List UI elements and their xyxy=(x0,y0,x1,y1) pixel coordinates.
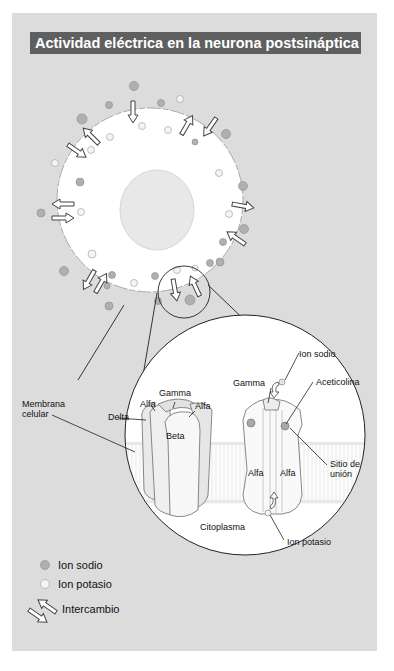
label-alfa: Alfa xyxy=(248,468,264,478)
label-ion-potasio: Ion potasio xyxy=(287,537,331,547)
label-gamma: Gamma xyxy=(159,388,191,398)
exchange-arrows-icon xyxy=(26,596,59,627)
label-alfa: Alfa xyxy=(280,468,296,478)
svg-text:unión: unión xyxy=(330,469,352,479)
receptor-closed xyxy=(142,399,212,517)
legend: Ion sodio Ion potasio Intercambio xyxy=(26,559,119,626)
label-sitio-de-union: Sitio de xyxy=(330,459,360,469)
potassium-ion-icon xyxy=(41,580,50,589)
legend-label: Intercambio xyxy=(62,603,119,615)
label-beta: Beta xyxy=(166,431,185,441)
legend-label: Ion potasio xyxy=(58,578,112,590)
legend-label: Ion sodio xyxy=(58,559,103,571)
label-citoplasma: Citoplasma xyxy=(200,522,245,532)
label-membrana-celular: Membrana xyxy=(22,399,65,409)
svg-text:celular: celular xyxy=(22,409,49,419)
membrane-inset: Membrana celular Delta Alfa Gamma Alfa B… xyxy=(22,315,370,555)
label-ion-sodio: Ion sodio xyxy=(299,349,336,359)
label-gamma: Gamma xyxy=(233,378,265,388)
label-alfa: Alfa xyxy=(195,401,211,411)
label-alfa: Alfa xyxy=(140,399,156,409)
label-acetilcolina: Aceticolina xyxy=(316,377,360,387)
nucleus xyxy=(120,170,194,250)
label-delta: Delta xyxy=(108,412,129,422)
sodium-ion-inset xyxy=(279,379,285,385)
neuron-diagram: Membrana celular Delta Alfa Gamma Alfa B… xyxy=(0,0,394,671)
sodium-ion-icon xyxy=(41,561,50,570)
